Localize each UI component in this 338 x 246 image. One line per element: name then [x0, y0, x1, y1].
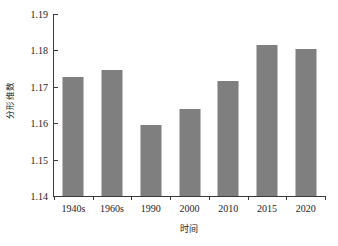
bar	[179, 109, 200, 196]
y-tick-label: 1.19	[31, 9, 49, 20]
y-tick-label: 1.17	[31, 81, 49, 92]
x-tick	[131, 196, 132, 200]
bars-layer	[54, 14, 325, 196]
y-axis-title: 分形维数	[2, 60, 16, 140]
y-axis-title-label: 分形维数	[3, 81, 15, 119]
x-tick-label: 2015	[257, 203, 277, 214]
x-tick-label: 2010	[218, 203, 238, 214]
x-tick	[248, 196, 249, 200]
y-tick-label: 1.14	[31, 191, 49, 202]
x-tick-label: 1960s	[100, 203, 124, 214]
bar	[295, 49, 316, 196]
x-tick	[93, 196, 94, 200]
x-axis-title: 时间	[53, 222, 325, 235]
plot-area: 1.141.151.161.171.181.19 1940s1960s19902…	[53, 14, 325, 197]
x-tick	[54, 196, 55, 200]
y-tick-label: 1.18	[31, 45, 49, 56]
x-tick-label: 1990	[141, 203, 161, 214]
y-tick-label: 1.15	[31, 154, 49, 165]
x-tick-label: 2000	[180, 203, 200, 214]
bar	[218, 81, 239, 196]
bar	[256, 45, 277, 196]
x-tick	[325, 196, 326, 200]
bar	[63, 77, 84, 196]
x-tick	[209, 196, 210, 200]
bar	[140, 125, 161, 196]
bar	[102, 70, 123, 196]
x-tick-label: 2020	[296, 203, 316, 214]
bar-chart: 分形维数 1.141.151.161.171.181.19 1940s1960s…	[0, 0, 338, 246]
x-tick	[286, 196, 287, 200]
x-tick-label: 1940s	[61, 203, 85, 214]
x-tick	[170, 196, 171, 200]
y-tick-label: 1.16	[31, 118, 49, 129]
